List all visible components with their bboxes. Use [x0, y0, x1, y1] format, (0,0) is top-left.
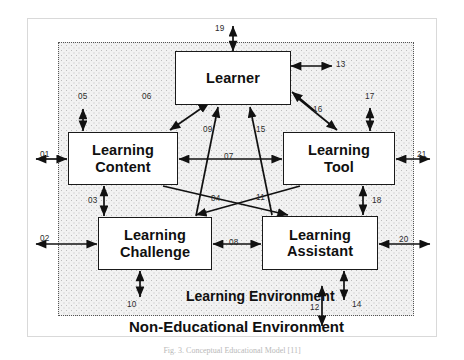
- edge-label-06: 06: [142, 92, 152, 101]
- node-learning-challenge-label: LearningChallenge: [117, 227, 193, 259]
- edge-label-04: 04: [211, 194, 221, 203]
- node-learner-label: Learner: [203, 70, 263, 86]
- edge-label-13: 13: [336, 60, 346, 69]
- non-educational-environment-label: Non-Educational Environment: [129, 318, 344, 335]
- node-learning-assistant-label: LearningAssistant: [284, 227, 356, 259]
- edge-label-21: 21: [417, 150, 427, 159]
- node-learning-challenge[interactable]: LearningChallenge: [98, 217, 212, 270]
- edge-label-01: 01: [40, 150, 50, 159]
- node-learning-content[interactable]: LearningContent: [68, 132, 178, 185]
- edge-label-12: 12: [310, 303, 320, 312]
- edge-label-05: 05: [78, 92, 88, 101]
- node-learner[interactable]: Learner: [175, 51, 291, 105]
- edge-label-18: 18: [372, 196, 382, 205]
- figure-stage: Learner LearningContent LearningTool Lea…: [0, 0, 464, 360]
- node-learning-tool-label: LearningTool: [305, 142, 373, 174]
- edge-label-14: 14: [352, 300, 362, 309]
- edge-label-19: 19: [215, 24, 225, 33]
- edge-label-11: 11: [256, 193, 265, 202]
- edge-label-10: 10: [127, 300, 137, 309]
- edge-label-16: 16: [313, 105, 323, 114]
- edge-label-17: 17: [365, 92, 375, 101]
- edge-label-15: 15: [256, 125, 266, 134]
- edge-label-03: 03: [88, 196, 98, 205]
- figure-caption: Fig. 3. Conceptual Educational Model [11…: [0, 346, 464, 355]
- node-learning-tool[interactable]: LearningTool: [283, 132, 395, 185]
- edge-label-09: 09: [203, 125, 213, 134]
- node-learning-assistant[interactable]: LearningAssistant: [262, 216, 378, 270]
- node-learning-content-label: LearningContent: [89, 142, 157, 174]
- learning-environment-label: Learning Environment: [186, 288, 335, 304]
- edge-label-02: 02: [40, 234, 50, 243]
- edge-label-07: 07: [224, 152, 234, 161]
- edge-label-08: 08: [229, 238, 239, 247]
- edge-label-20: 20: [399, 235, 409, 244]
